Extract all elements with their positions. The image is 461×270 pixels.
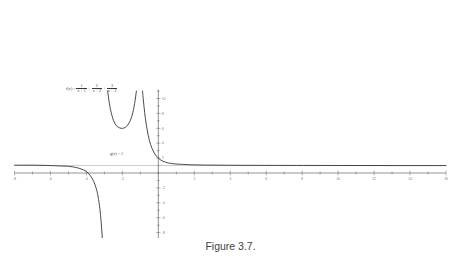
x-tick-label: -8 — [13, 177, 16, 181]
asymptote-formula-label: g(x) = 1 — [110, 152, 123, 156]
y-axis-ticks: -8-6-4-2246810 — [156, 91, 166, 235]
formula-fraction: 1x + 1 — [76, 84, 87, 94]
x-tick-label: 10 — [336, 177, 340, 181]
y-tick-label: -6 — [162, 216, 165, 220]
y-tick-label: 6 — [162, 127, 164, 131]
fraction-denominator: x + 1 — [76, 88, 87, 93]
formula-fraction: 3x + 3 — [107, 84, 118, 94]
curve-middle-branch — [108, 91, 137, 128]
x-tick-label: -2 — [121, 177, 124, 181]
formula-fraction: 2x + 2 — [92, 84, 103, 94]
curve-right-branch — [143, 91, 446, 166]
fraction-denominator: x + 2 — [92, 88, 103, 93]
curve-left-branch — [15, 165, 103, 238]
function-formula-label: f(x) =1x + 1+2x + 2+3x + 3 — [66, 84, 118, 94]
y-tick-label: 4 — [162, 141, 164, 145]
plot-svg: -8-6-4-2246810121416 -8-6-4-2246810 — [0, 0, 461, 238]
x-tick-label: 6 — [265, 177, 267, 181]
function-curves — [15, 91, 447, 238]
formula-operator: + — [88, 87, 91, 91]
x-tick-label: 8 — [301, 177, 303, 181]
y-tick-label: -4 — [162, 201, 165, 205]
y-tick-label: 2 — [162, 156, 164, 160]
y-tick-label: -2 — [162, 186, 165, 190]
function-terms: 1x + 1+2x + 2+3x + 3 — [76, 86, 118, 91]
function-lhs: f(x) = — [66, 87, 76, 91]
fraction-denominator: x + 3 — [107, 88, 118, 93]
x-tick-label: 4 — [229, 177, 231, 181]
figure-caption: Figure 3.7. — [0, 240, 461, 252]
x-tick-label: 2 — [193, 177, 195, 181]
y-tick-label: 10 — [162, 97, 166, 101]
x-tick-label: -4 — [85, 177, 88, 181]
x-axis-ticks: -8-6-4-2246810121416 — [13, 171, 448, 182]
x-tick-label: 14 — [408, 177, 412, 181]
y-tick-label: -8 — [162, 231, 165, 235]
formula-operator: + — [103, 87, 106, 91]
plot-area: -8-6-4-2246810121416 -8-6-4-2246810 — [0, 0, 461, 238]
x-tick-label: 12 — [372, 177, 376, 181]
y-tick-label: 8 — [162, 112, 164, 116]
x-tick-label: -6 — [49, 177, 52, 181]
x-tick-label: 16 — [444, 177, 448, 181]
figure-container: -8-6-4-2246810121416 -8-6-4-2246810 f(x)… — [0, 0, 461, 270]
